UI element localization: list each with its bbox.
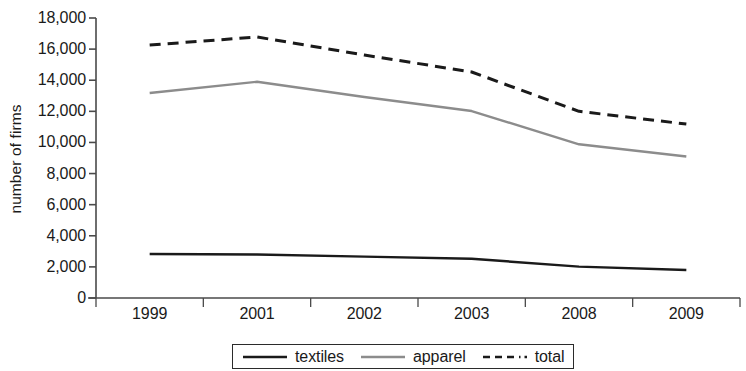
legend-swatch-total: [482, 351, 528, 363]
chart-figure: 02,0004,0006,0008,00010,00012,00014,0001…: [0, 0, 746, 371]
chart-axes: [88, 18, 740, 307]
y-axis-tick-label: 16,000: [12, 41, 86, 57]
series-line-apparel: [150, 82, 687, 157]
legend-swatch-apparel: [360, 351, 406, 363]
x-axis-tick-label: 2008: [525, 306, 632, 322]
legend-label-textiles: textiles: [295, 349, 344, 365]
series-line-textiles: [150, 254, 687, 270]
legend-item-textiles: textiles: [242, 349, 344, 365]
x-axis-tick-label: 2002: [311, 306, 418, 322]
legend-item-apparel: apparel: [360, 349, 466, 365]
chart-legend: textilesappareltotal: [232, 344, 574, 369]
x-axis-tick-label: 1999: [96, 306, 203, 322]
legend-label-apparel: apparel: [413, 349, 466, 365]
x-axis-tick-label: 2001: [203, 306, 310, 322]
y-axis-title: number of firms: [7, 59, 25, 259]
y-axis-tick-label: 18,000: [12, 10, 86, 26]
x-axis-tick-label: 2003: [418, 306, 525, 322]
series-line-total: [150, 37, 687, 124]
legend-item-total: total: [482, 349, 565, 365]
legend-swatch-textiles: [242, 351, 288, 363]
x-axis-tick-label: 2009: [633, 306, 740, 322]
legend-label-total: total: [535, 349, 565, 365]
y-axis-tick-label: 2,000: [12, 259, 86, 275]
y-axis-tick-label: 0: [12, 290, 86, 306]
chart-series: [150, 37, 687, 270]
